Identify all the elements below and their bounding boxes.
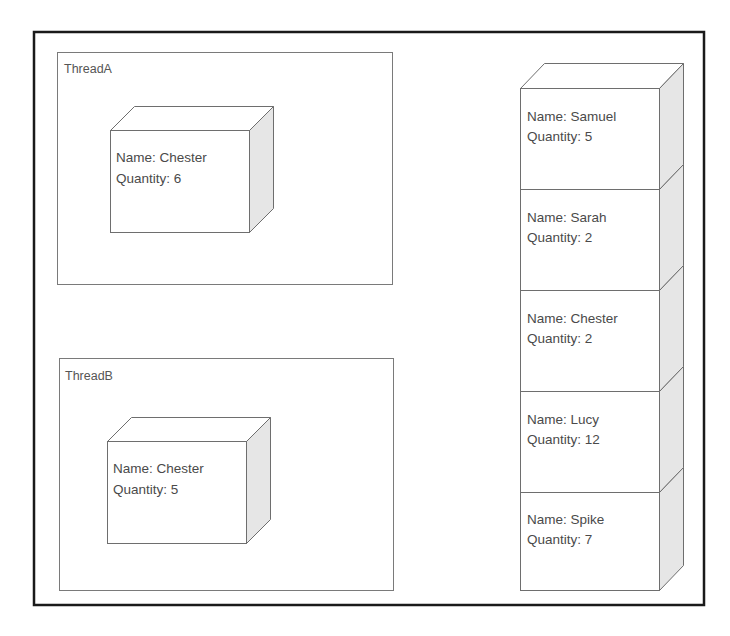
diagram-canvas: ThreadA Name: Chester Quantity: 6 Thread… [0,0,730,636]
cube-top-face [108,418,271,442]
cube-top-face [111,107,274,131]
stack-item-quantity: Quantity: 2 [527,230,592,245]
stack-item-name: Name: Samuel [527,109,616,124]
stack-item-quantity: Quantity: 12 [527,432,600,447]
item-quantity: Quantity: 5 [113,482,178,497]
thread-b-container: ThreadB Name: Chester Quantity: 5 [60,359,394,591]
item-quantity: Quantity: 6 [116,171,181,186]
thread-a-container: ThreadA Name: Chester Quantity: 6 [58,53,393,285]
thread-a-item-cube: Name: Chester Quantity: 6 [111,107,274,233]
stack-item-name: Name: Spike [527,512,604,527]
stack-top-face [521,64,684,89]
thread-a-label: ThreadA [64,62,113,76]
thread-b-label: ThreadB [65,369,113,383]
stack-item-name: Name: Chester [527,311,618,326]
stack-item-name: Name: Sarah [527,210,607,225]
thread-b-item-cube: Name: Chester Quantity: 5 [108,418,271,544]
stack-item-quantity: Quantity: 2 [527,331,592,346]
item-name: Name: Chester [116,150,207,165]
stack-item-quantity: Quantity: 7 [527,532,592,547]
item-name: Name: Chester [113,461,204,476]
stack-item-name: Name: Lucy [527,412,599,427]
item-stack: Name: Samuel Quantity: 5 Name: Sarah Qua… [521,64,684,591]
stack-item-quantity: Quantity: 5 [527,129,592,144]
